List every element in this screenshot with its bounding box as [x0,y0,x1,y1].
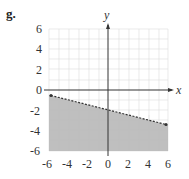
x-tick: 6 [165,157,171,171]
x-tick: 4 [145,157,151,171]
y-tick: 6 [36,22,42,36]
x-tick: -2 [82,157,92,171]
x-tick: -4 [62,157,72,171]
y-tick: 0 [36,83,42,97]
y-axis-label: y [103,8,110,22]
y-tick: -6 [30,144,40,158]
x-tick: 2 [125,157,131,171]
y-tick: 2 [36,63,42,77]
x-tick: -6 [42,157,52,171]
y-tick: -4 [30,124,40,138]
x-tick: 0 [105,157,111,171]
y-tick: 4 [36,42,42,56]
y-tick: -2 [30,104,40,118]
inequality-graph: y x 6 4 2 0 -2 -4 -6 -6 -4 -2 0 2 4 6 [0,0,189,179]
x-axis-label: x [175,83,182,97]
